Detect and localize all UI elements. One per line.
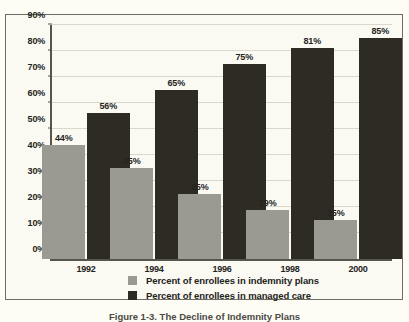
bar-value-label: 15% [327,208,344,218]
bar-value-label: 44% [55,133,72,143]
bar-value-label: 65% [168,78,185,88]
x-axis-tick-label: 2000 [348,264,367,274]
legend-swatch-icon [128,276,137,285]
y-axis-tick-label: 50% [28,114,45,124]
bar-value-label: 56% [100,101,117,111]
bar-value-label: 75% [236,52,253,62]
y-axis-tick-label: 60% [28,88,45,98]
bar-managed-2000: 85% [359,38,402,259]
y-axis-tick-label: 90% [28,10,45,20]
bar-group: 15%85%2000 [324,25,392,259]
y-axis-tick-label: 70% [28,62,45,72]
bar-indemnity-1996: 25% [178,194,221,259]
chart-legend: Percent of enrollees in indemnity plansP… [128,273,319,303]
chart-frame: 0%10%20%30%40%50%60%70%80%90% 44%56%1992… [5,14,403,300]
bar-value-label: 35% [123,156,140,166]
bar-indemnity-2000: 15% [314,220,357,259]
legend-label: Percent of enrollees in indemnity plans [146,275,319,286]
bar-value-label: 81% [304,36,321,46]
bar-value-label: 85% [372,26,389,36]
figure-caption: Figure 1-3. The Decline of Indemnity Pla… [0,311,409,322]
bar-indemnity-1994: 35% [110,168,153,259]
legend-swatch-icon [128,291,137,300]
bar-value-label: 25% [191,182,208,192]
legend-item: Percent of enrollees in managed care [128,288,319,303]
plot-area: 0%10%20%30%40%50%60%70%80%90% 44%56%1992… [50,25,392,261]
bar-indemnity-1998: 19% [246,210,289,259]
bar-value-label: 19% [259,198,276,208]
figure: 0%10%20%30%40%50%60%70%80%90% 44%56%1992… [0,0,409,322]
bar-indemnity-1992: 44% [42,145,85,259]
x-axis-tick-label: 1992 [76,264,95,274]
y-axis-tick-label: 80% [28,36,45,46]
legend-label: Percent of enrollees in managed care [146,290,311,301]
legend-item: Percent of enrollees in indemnity plans [128,273,319,288]
